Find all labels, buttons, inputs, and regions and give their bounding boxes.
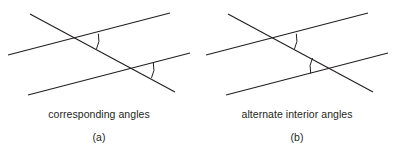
parallel-line-lower-a	[28, 53, 190, 95]
lower-angle-arc-a	[151, 63, 154, 78]
geometry-figure: corresponding angles (a) alternate inter…	[0, 0, 396, 164]
upper-angle-arc-b	[294, 34, 297, 49]
diagram-b	[198, 0, 396, 108]
diagram-a	[0, 0, 198, 108]
parallel-line-lower-b	[226, 53, 388, 95]
upper-angle-arc-a	[96, 34, 99, 49]
transversal-line-b	[228, 14, 373, 92]
panel-b-index-label: (b)	[198, 131, 396, 143]
parallel-line-upper-b	[206, 13, 368, 55]
lower-angle-arc-b	[310, 58, 313, 73]
panel-a-index-label: (a)	[0, 131, 198, 143]
parallel-line-upper-a	[8, 13, 170, 55]
panel-b-caption: alternate interior angles	[198, 108, 396, 120]
panel-alternate-interior-angles: alternate interior angles (b)	[198, 0, 396, 164]
panel-a-caption: corresponding angles	[0, 108, 198, 120]
transversal-line-a	[30, 14, 175, 92]
panel-corresponding-angles: corresponding angles (a)	[0, 0, 198, 164]
